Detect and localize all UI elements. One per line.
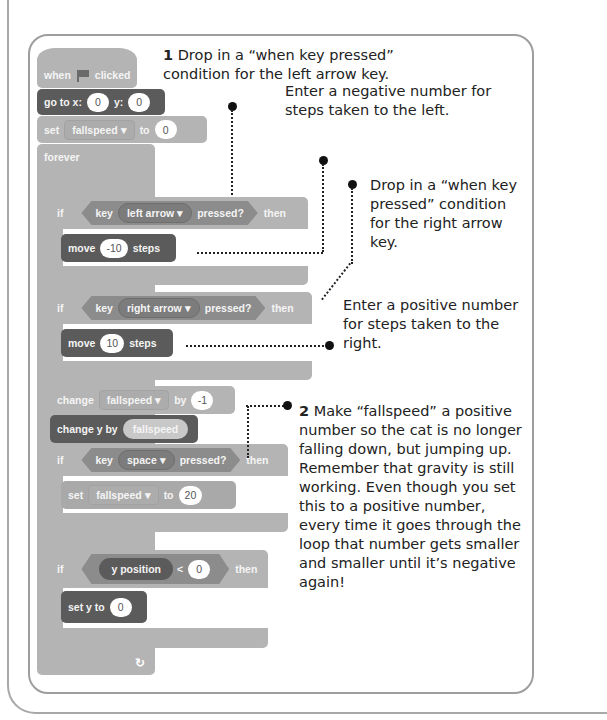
- key-pressed-condition[interactable]: key right arrow ▾ pressed?: [81, 296, 265, 320]
- leader-line: [231, 110, 233, 195]
- less-than-operator: <: [177, 563, 183, 575]
- if-space-header: if key space ▾ pressed? then: [50, 444, 288, 476]
- variable-dropdown[interactable]: fallspeed ▾: [88, 485, 158, 505]
- key-pressed-condition[interactable]: key space ▾ pressed?: [81, 448, 240, 472]
- key-dropdown[interactable]: left arrow ▾: [118, 203, 192, 223]
- annotation-right-key: Drop in a “when key pressed” condition f…: [370, 176, 530, 252]
- move-label: move: [68, 242, 95, 254]
- y-label: y:: [114, 96, 123, 108]
- annotation-positive: Enter a positive number for steps taken …: [343, 296, 523, 353]
- then-label: then: [271, 302, 293, 314]
- to-label: to: [140, 124, 150, 136]
- pressed-label: pressed?: [205, 302, 252, 314]
- leader-line: [322, 164, 324, 252]
- change-label: change: [57, 394, 94, 406]
- if-label: if: [57, 302, 63, 314]
- change-y-label: change y by: [57, 423, 118, 435]
- annotation-2: 2 Make “fallspeed” a positive number so …: [299, 402, 529, 592]
- if-label: if: [57, 563, 63, 575]
- leader-dot: [283, 401, 292, 410]
- key-dropdown[interactable]: right arrow ▾: [118, 298, 200, 318]
- value-input[interactable]: 0: [188, 560, 210, 579]
- move-left-block[interactable]: move -10 steps: [61, 234, 176, 262]
- pressed-label: pressed?: [197, 207, 244, 219]
- set-fallspeed-20-block[interactable]: set fallspeed ▾ to 20: [61, 481, 236, 509]
- goto-label: go to x:: [44, 96, 82, 108]
- go-to-xy-block[interactable]: go to x: 0 y: 0: [37, 89, 165, 115]
- step-number: 1: [163, 47, 173, 63]
- step-number: 2: [299, 403, 309, 419]
- leader-line: [351, 188, 353, 264]
- loop-arrow-icon: ↻: [135, 656, 145, 670]
- annotation-text: Make “fallspeed” a positive number so th…: [299, 403, 522, 590]
- value-input[interactable]: 0: [110, 598, 132, 617]
- annotation-negative: Enter a negative number for steps taken …: [285, 82, 525, 120]
- if-right-arrow-header: if key right arrow ▾ pressed? then: [50, 292, 312, 324]
- steps-label: steps: [129, 337, 156, 349]
- key-dropdown[interactable]: space ▾: [118, 450, 175, 470]
- change-y-block[interactable]: change y by fallspeed: [50, 415, 198, 443]
- leader-dot: [325, 341, 334, 350]
- annotation-text: Drop in a “when key pressed” condition f…: [163, 47, 394, 82]
- key-label: key: [95, 207, 113, 219]
- leader-line: [246, 405, 284, 407]
- then-label: then: [264, 207, 286, 219]
- annotation-text: Enter a negative number for steps taken …: [285, 83, 491, 118]
- key-label: key: [95, 302, 113, 314]
- set-label: set: [68, 489, 83, 501]
- x-input[interactable]: 0: [87, 93, 109, 112]
- less-than-condition[interactable]: y position < 0: [81, 554, 229, 584]
- value-input[interactable]: 0: [155, 120, 177, 139]
- value-input[interactable]: 20: [179, 486, 203, 505]
- leader-line: [247, 406, 249, 458]
- pressed-label: pressed?: [180, 454, 227, 466]
- then-label: then: [246, 454, 268, 466]
- variable-dropdown[interactable]: fallspeed ▾: [64, 120, 134, 140]
- annotation-text: Drop in a “when key pressed” condition f…: [370, 177, 517, 250]
- move-right-block[interactable]: move 10 steps: [61, 329, 173, 357]
- when-label: when: [44, 69, 71, 81]
- if-left-arrow-header: if key left arrow ▾ pressed? then: [50, 197, 308, 229]
- change-fallspeed-block[interactable]: change fallspeed ▾ by -1: [50, 386, 235, 414]
- variable-dropdown[interactable]: fallspeed ▾: [99, 390, 169, 410]
- fallspeed-reporter[interactable]: fallspeed: [123, 419, 189, 439]
- then-label: then: [235, 563, 257, 575]
- clicked-label: clicked: [95, 69, 131, 81]
- y-input[interactable]: 0: [128, 93, 150, 112]
- if-label: if: [57, 454, 63, 466]
- value-input[interactable]: -1: [191, 391, 213, 410]
- forever-label-bar: forever: [37, 144, 155, 169]
- set-y-label: set y to: [68, 601, 105, 613]
- green-flag-icon: [77, 70, 89, 81]
- leader-line: [186, 345, 328, 347]
- annotation-text: Enter a positive number for steps taken …: [343, 297, 518, 351]
- if-y-position-header: if y position < 0 then: [50, 550, 268, 588]
- if-label: if: [57, 207, 63, 219]
- steps-input[interactable]: 10: [100, 334, 124, 353]
- leader-line: [197, 252, 323, 254]
- when-flag-clicked-block[interactable]: when clicked: [37, 48, 137, 88]
- annotation-1: 1 Drop in a “when key pressed” condition…: [163, 46, 463, 84]
- y-position-reporter[interactable]: y position: [99, 558, 173, 580]
- forever-label: forever: [44, 151, 80, 163]
- key-label: key: [95, 454, 113, 466]
- steps-label: steps: [133, 242, 160, 254]
- steps-input[interactable]: -10: [100, 239, 127, 258]
- set-y-block[interactable]: set y to 0: [61, 591, 147, 623]
- to-label: to: [164, 489, 174, 501]
- key-pressed-condition[interactable]: key left arrow ▾ pressed?: [81, 201, 257, 225]
- set-label: set: [44, 124, 59, 136]
- set-fallspeed-block[interactable]: set fallspeed ▾ to 0: [37, 116, 207, 143]
- move-label: move: [68, 337, 95, 349]
- by-label: by: [174, 394, 186, 406]
